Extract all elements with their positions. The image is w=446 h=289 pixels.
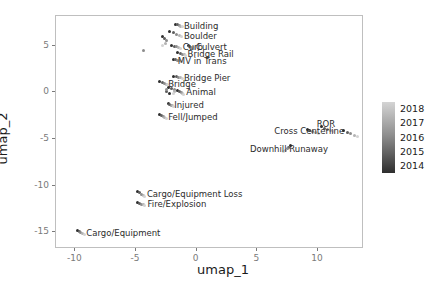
cluster-label: Cargo/Equipment xyxy=(86,229,160,238)
colorbar-tick-label: 2017 xyxy=(400,119,424,129)
y-tick-mark xyxy=(52,91,55,92)
x-tick-label: -5 xyxy=(131,254,140,263)
y-tick-mark xyxy=(52,231,55,232)
cluster-label: Injured xyxy=(174,101,204,110)
cluster-label: Boulder xyxy=(184,32,217,41)
data-point xyxy=(168,92,171,95)
cluster-label: Building xyxy=(184,22,218,31)
cluster-label: Fell/Jumped xyxy=(168,113,217,122)
data-point xyxy=(143,195,146,198)
y-tick-label: -5 xyxy=(21,134,49,143)
data-point xyxy=(142,49,145,52)
colorbar-gradient xyxy=(382,102,395,173)
x-tick-mark xyxy=(196,248,197,251)
cluster-label: Cross Centerline xyxy=(274,127,344,136)
data-point xyxy=(179,47,182,50)
y-tick-mark xyxy=(52,185,55,186)
colorbar-tick-label: 2015 xyxy=(400,147,424,157)
cluster-label: Fire/Explosion xyxy=(148,200,207,209)
x-tick-label: 5 xyxy=(253,254,259,263)
data-point xyxy=(180,35,183,38)
x-tick-label: -10 xyxy=(67,254,82,263)
x-tick-label: 0 xyxy=(193,254,199,263)
y-axis-title: umap_2 xyxy=(0,113,10,165)
data-point xyxy=(349,132,352,135)
y-tick-label: 5 xyxy=(21,40,49,49)
colorbar-tick-label: 2016 xyxy=(400,133,424,143)
y-tick-label: 0 xyxy=(21,87,49,96)
cluster-label: MV in Trans xyxy=(178,57,227,66)
y-tick-label: -10 xyxy=(21,180,49,189)
umap-scatter-figure: BuildingBoulderCurbCulvertBridge RailMV … xyxy=(0,0,446,289)
y-tick-mark xyxy=(52,138,55,139)
cluster-label: Cargo/Equipment Loss xyxy=(147,190,242,199)
data-point xyxy=(346,131,349,134)
cluster-label: Downhill Runaway xyxy=(250,145,328,154)
data-point xyxy=(143,204,146,207)
data-point xyxy=(164,42,167,45)
data-point xyxy=(83,233,86,236)
x-tick-mark xyxy=(74,248,75,251)
data-point xyxy=(356,135,359,138)
data-point xyxy=(172,92,175,95)
plot-panel: BuildingBoulderCurbCulvertBridge RailMV … xyxy=(55,15,363,248)
x-tick-label: 10 xyxy=(311,254,322,263)
y-tick-label: -15 xyxy=(21,227,49,236)
y-tick-mark xyxy=(52,45,55,46)
data-point xyxy=(182,93,185,96)
x-tick-mark xyxy=(317,248,318,251)
cluster-label: Animal xyxy=(186,88,215,97)
colorbar-tick-label: 2014 xyxy=(400,161,424,171)
x-tick-mark xyxy=(256,248,257,251)
x-axis-title: umap_1 xyxy=(0,262,446,277)
colorbar-tick-label: 2018 xyxy=(400,104,424,114)
x-tick-mark xyxy=(135,248,136,251)
